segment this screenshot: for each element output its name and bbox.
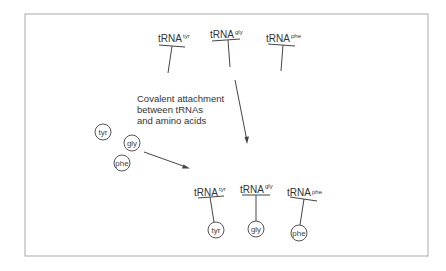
trna-acceptor-bar bbox=[268, 44, 295, 46]
trna-label: tRNA bbox=[210, 29, 234, 40]
trna-stem bbox=[228, 40, 230, 67]
amino-acid-label: tyr bbox=[99, 128, 108, 137]
reaction-arrow bbox=[235, 80, 249, 144]
trna-label: tRNA bbox=[287, 187, 311, 198]
trna-label: tRNA bbox=[240, 184, 264, 195]
trna-label: tRNA bbox=[266, 33, 290, 44]
free-amino-acid-phe: phe bbox=[114, 155, 130, 171]
arrowhead-icon bbox=[245, 137, 250, 145]
amino-acid-label: tyr bbox=[212, 226, 221, 235]
trna-label: tRNA bbox=[158, 33, 182, 44]
amino-acid-label: phe bbox=[292, 229, 306, 238]
frame-border bbox=[25, 14, 428, 256]
trna-superscript: phe bbox=[291, 33, 302, 39]
caption-line-1: Covalent attachment bbox=[137, 93, 224, 104]
arrowhead-icon bbox=[182, 165, 190, 169]
diagram-canvas: tRNA tyr tRNA gly tRNA phe Covalent atta… bbox=[0, 0, 446, 271]
trna-superscript: gly bbox=[265, 183, 273, 189]
free-amino-acid-tyr: tyr bbox=[95, 124, 111, 140]
charged-trna-phe: tRNA phe phe bbox=[287, 187, 323, 241]
top-trna-phe: tRNA phe bbox=[266, 33, 302, 71]
charged-trna-tyr: tRNA tyr tyr bbox=[194, 186, 226, 238]
top-trna-tyr: tRNA tyr bbox=[158, 33, 190, 73]
amino-acid-label: phe bbox=[115, 159, 129, 168]
trna-stem bbox=[168, 46, 172, 73]
trna-superscript: phe bbox=[312, 189, 323, 195]
trna-stem bbox=[281, 45, 283, 71]
amino-acid-label: gly bbox=[251, 225, 261, 234]
trna-stem bbox=[210, 197, 214, 222]
free-amino-acid-gly: gly bbox=[124, 135, 140, 151]
charged-trna-gly: tRNA gly gly bbox=[240, 183, 273, 237]
amino-acid-label: gly bbox=[127, 139, 137, 148]
caption-line-3: and amino acids bbox=[137, 115, 206, 126]
caption-line-2: between tRNAs bbox=[137, 104, 203, 115]
top-trna-gly: tRNA gly bbox=[210, 29, 243, 67]
trna-superscript: tyr bbox=[183, 33, 190, 39]
trna-superscript: tyr bbox=[219, 186, 226, 192]
caption: Covalent attachment between tRNAs and am… bbox=[137, 93, 224, 126]
trna-superscript: gly bbox=[235, 29, 243, 35]
amino-acid-arrow bbox=[144, 152, 190, 169]
trna-stem bbox=[300, 199, 304, 225]
